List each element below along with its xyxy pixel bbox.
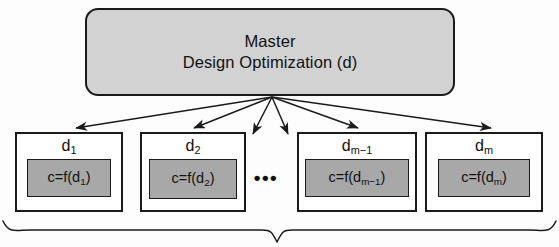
subproblem-node-4[interactable]: dm c=f(dm) <box>425 132 543 212</box>
subproblem-inner-box-2: c=f(d2) <box>149 159 237 199</box>
subproblem-formula-3: c=f(dm−1) <box>329 170 386 187</box>
arrow-to-subproblem-3 <box>272 97 358 128</box>
fanout-arrows <box>76 97 491 134</box>
subproblem-inner-box-4: c=f(dm) <box>438 159 530 197</box>
subproblem-formula-4: c=f(dm) <box>461 170 507 187</box>
arrow-to-subproblem-2 <box>194 97 272 128</box>
master-title-line-1: Master <box>244 31 295 52</box>
subproblem-node-1[interactable]: d1 c=f(d1) <box>15 132 123 212</box>
subproblem-node-2[interactable]: d2 c=f(d2) <box>140 132 246 212</box>
subproblem-label-1: d1 <box>62 138 77 156</box>
subproblem-label-4: dm <box>475 138 493 156</box>
ellipsis-separator: ••• <box>252 168 280 187</box>
bottom-curly-brace <box>3 221 556 242</box>
arrow-to-subproblem-1 <box>76 97 272 128</box>
diagram-canvas: Master Design Optimization (d) d1 c=f(d1… <box>0 0 559 247</box>
subproblem-formula-2: c=f(d2) <box>172 171 215 188</box>
master-title-line-2: Design Optimization (d) <box>183 52 358 73</box>
arrow-to-ellipsis-left <box>253 97 272 134</box>
subproblem-formula-1: c=f(d1) <box>48 170 91 187</box>
arrow-to-subproblem-4 <box>272 97 491 128</box>
subproblem-inner-box-3: c=f(dm−1) <box>305 159 409 197</box>
subproblem-label-3: dm−1 <box>342 138 372 156</box>
subproblem-label-2: d2 <box>186 138 201 156</box>
subproblem-inner-box-1: c=f(d1) <box>27 159 111 197</box>
master-node[interactable]: Master Design Optimization (d) <box>85 8 455 96</box>
subproblem-node-3[interactable]: dm−1 c=f(dm−1) <box>297 132 417 212</box>
